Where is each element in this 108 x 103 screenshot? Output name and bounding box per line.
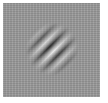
noise-background [3,3,100,97]
gabor-patch [14,11,90,87]
